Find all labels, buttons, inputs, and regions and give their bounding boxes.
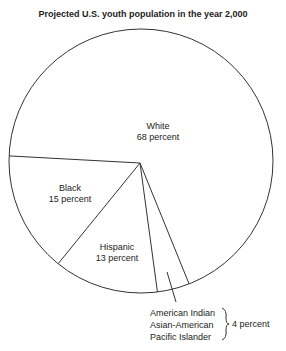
pie-chart: Projected U.S. youth population in the y…	[0, 0, 286, 351]
slice-boundary-other	[140, 163, 189, 284]
brace	[222, 308, 229, 340]
slice-value-white: 68 percent	[137, 132, 180, 142]
slice-value-hispanic: 13 percent	[96, 253, 139, 263]
slice-label-white: White	[146, 121, 169, 131]
other-group-2: Asian-American	[150, 320, 214, 330]
chart-title: Projected U.S. youth population in the y…	[38, 9, 247, 19]
pie-outline	[9, 29, 273, 293]
slice-label-hispanic: Hispanic	[100, 242, 135, 252]
slice-label-black: Black	[59, 183, 82, 193]
other-leader-line	[167, 272, 176, 302]
slice-boundary-hispanic	[140, 163, 157, 292]
slice-boundary-white	[9, 156, 140, 163]
slice-value-black: 15 percent	[49, 194, 92, 204]
other-group-1: American Indian	[150, 308, 215, 318]
other-group-3: Pacific Islander	[150, 332, 211, 342]
other-combined-value: 4 percent	[232, 319, 270, 329]
